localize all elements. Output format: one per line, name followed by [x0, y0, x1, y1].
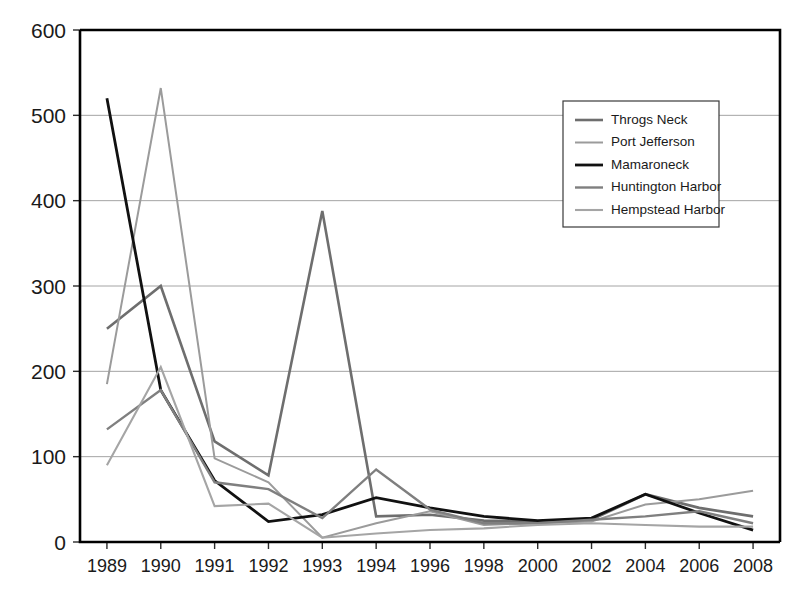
y-axis-tick-label: 300 [31, 275, 66, 298]
legend-label-hempstead-harbor: Hempstead Harbor [611, 202, 726, 217]
y-axis-tick-label: 400 [31, 189, 66, 212]
chart-legend: Throgs NeckPort JeffersonMamaroneckHunti… [563, 101, 726, 227]
x-axis-tick-label: 1992 [248, 556, 288, 576]
legend-label-throgs-neck: Throgs Neck [611, 112, 688, 127]
x-axis-tick-label: 2006 [679, 556, 719, 576]
legend-label-port-jefferson: Port Jefferson [611, 134, 695, 149]
series-line-throgs-neck [107, 211, 753, 522]
x-axis-tick-label: 1998 [464, 556, 504, 576]
y-axis-tick-label: 600 [31, 19, 66, 42]
y-axis-labels-group: 0100200300400500600 [31, 19, 66, 554]
gridlines-group [80, 30, 780, 457]
x-axis-tick-label: 1994 [356, 556, 396, 576]
x-axis-tick-label: 2000 [518, 556, 558, 576]
legend-label-mamaroneck: Mamaroneck [611, 157, 689, 172]
x-axis-tick-label: 1996 [410, 556, 450, 576]
line-chart: 0100200300400500600 19891990199119921993… [0, 0, 794, 594]
y-axis-tick-label: 200 [31, 360, 66, 383]
x-axis-tick-label: 2008 [733, 556, 773, 576]
x-axis-tick-label: 1993 [302, 556, 342, 576]
x-axis-labels-group: 1989199019911992199319941996199820002002… [87, 556, 773, 576]
x-axis-tick-label: 1989 [87, 556, 127, 576]
x-axis-tick-label: 1990 [141, 556, 181, 576]
y-axis-tick-label: 0 [54, 531, 66, 554]
x-axis-tick-label: 1991 [195, 556, 235, 576]
y-axis-tick-label: 500 [31, 104, 66, 127]
legend-label-huntington-harbor: Huntington Harbor [611, 179, 722, 194]
chart-svg: 0100200300400500600 19891990199119921993… [0, 0, 794, 594]
y-axis-tick-label: 100 [31, 445, 66, 468]
x-axis-tick-label: 2004 [625, 556, 665, 576]
x-axis-tick-label: 2002 [572, 556, 612, 576]
